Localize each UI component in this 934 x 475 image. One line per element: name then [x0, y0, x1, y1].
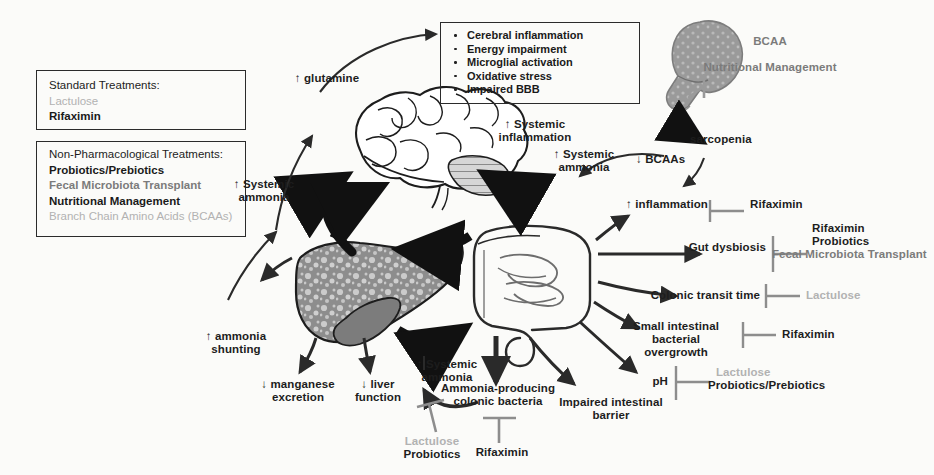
label-sarcopenia: sarcopenia	[690, 133, 778, 146]
legend-item-fmt: Fecal Microbiota Transplant	[49, 178, 235, 194]
legend-non-pharmacological-treatments: Non-Pharmacological Treatments: Probioti…	[36, 141, 246, 237]
bottom-inhibitor-colonic-bacteria: Rifaximin	[462, 446, 542, 459]
target-ph: pH	[626, 375, 668, 388]
legend-header: Non-Pharmacological Treatments:	[49, 147, 235, 163]
target-sibo: Small intestinal bacterial overgrowth	[614, 320, 738, 359]
drug-rifaximin-bottom: Rifaximin	[462, 446, 542, 459]
target-inflammation: ↑ inflammation	[600, 198, 708, 211]
drug-rifaximin-sibo: Rifaximin	[782, 328, 882, 341]
label-systemic-ammonia-mid: ↑ Systemic ammonia	[536, 148, 632, 174]
label-impaired-intestinal-barrier: Impaired intestinal barrier	[552, 396, 670, 422]
legend-standard-treatments: Standard Treatments: Lactulose Rifaximin	[36, 70, 246, 130]
label-systemic-inflammation: ↑ Systemic inflammation	[485, 118, 585, 144]
liver-illustration	[296, 242, 463, 346]
label-ammonia-shunting: ↑ ammonia shunting	[190, 330, 282, 356]
drug-lactulose-transit: Lactulose	[806, 289, 906, 302]
legend-item-bcaas: Branch Chain Amino Acids (BCAAs)	[49, 209, 235, 225]
figure-canvas: Standard Treatments: Lactulose Rifaximin…	[0, 0, 934, 475]
target-colonic-transit-time: Colonic transit time	[640, 289, 760, 302]
intestine-illustration	[474, 226, 590, 366]
legend-item-probiotics: Probiotics/Prebiotics	[49, 163, 235, 179]
drug-lactulose-ph: Lactulose	[716, 366, 866, 379]
legend-item-lactulose: Lactulose	[49, 94, 235, 110]
effect-item: Impaired BBB	[467, 83, 629, 97]
legend-item-nutritional-management: Nutritional Management	[49, 194, 235, 210]
effect-item: Microglial activation	[467, 56, 629, 70]
bcaa-note-line2: Nutritional Management	[703, 61, 836, 73]
label-ammonia-producing-colonic-bacteria: Ammonia-producing colonic bacteria	[434, 382, 562, 408]
bcaa-note-line1: BCAA	[753, 35, 787, 47]
label-glutamine: ↑ glutamine	[272, 72, 382, 85]
label-manganese-excretion: ↓ manganese excretion	[244, 378, 352, 404]
legend-item-rifaximin: Rifaximin	[49, 109, 235, 125]
target-gut-dysbiosis: Gut dysbiosis	[678, 241, 766, 254]
label-bcaas-down: ↓ BCAAs	[636, 153, 708, 166]
effect-item: Energy impairment	[467, 43, 629, 57]
label-systemic-ammonia-left: ↑ Systemic ammonia	[216, 178, 312, 204]
label-liver-function: ↓ liver function	[340, 378, 416, 404]
effect-item: Oxidative stress	[467, 70, 629, 84]
drug-rifaximin-inflammation: Rifaximin	[750, 198, 860, 211]
effect-item: Cerebral inflammation	[467, 29, 629, 43]
drug-group-ph: Lactulose Probiotics/Prebiotics	[716, 366, 866, 392]
drug-rifaximin-dysbiosis: Rifaximin	[812, 222, 934, 235]
legend-header: Standard Treatments:	[49, 78, 235, 94]
brain-effects-box: Cerebral inflammation Energy impairment …	[440, 22, 640, 104]
drug-probiotics-prebiotics-ph: Probiotics/Prebiotics	[708, 379, 866, 392]
drug-fmt-dysbiosis: Fecal Microbiota Transplant	[772, 248, 934, 261]
drug-probiotics-dysbiosis: Probiotics	[812, 235, 934, 248]
drug-group-gut-dysbiosis: Rifaximin Probiotics Fecal Microbiota Tr…	[812, 222, 934, 261]
bcaa-note: BCAA Nutritional Management	[690, 22, 850, 74]
